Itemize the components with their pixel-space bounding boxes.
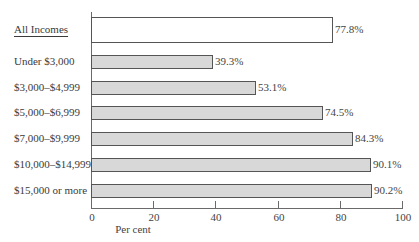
bar [91,106,323,120]
bar [91,17,333,43]
category-label: $7,000–$9,999 [14,132,80,144]
x-tick-label: 40 [211,211,222,223]
value-label: 74.5% [325,106,353,118]
category-label: Under $3,000 [14,55,75,67]
x-tick [402,201,403,208]
category-label: $3,000–$4,999 [14,81,80,93]
x-axis-line [91,208,403,209]
value-label: 90.2% [374,184,402,196]
value-label: 77.8% [335,23,363,35]
category-label: $15,000 or more [14,184,87,196]
x-tick-label: 100 [395,211,412,223]
x-tick-label: 20 [149,211,160,223]
value-label: 90.1% [373,158,401,170]
x-tick [340,201,341,208]
x-tick [215,201,216,208]
category-label: All Incomes [14,23,68,35]
x-axis-label: Per cent [115,223,151,235]
category-label: $5,000–$6,999 [14,106,80,118]
x-tick-label: 60 [274,211,285,223]
x-tick [278,201,279,208]
x-tick-label: 0 [89,211,95,223]
bar [91,81,256,95]
x-tick-label: 80 [336,211,347,223]
category-label: $10,000–$14,999 [14,158,91,170]
value-label: 53.1% [258,81,286,93]
value-label: 39.3% [215,55,243,67]
value-label: 84.3% [355,132,383,144]
bar [91,55,213,69]
bar [91,132,353,146]
bar [91,184,372,198]
x-tick [153,201,154,208]
bar [91,158,371,172]
